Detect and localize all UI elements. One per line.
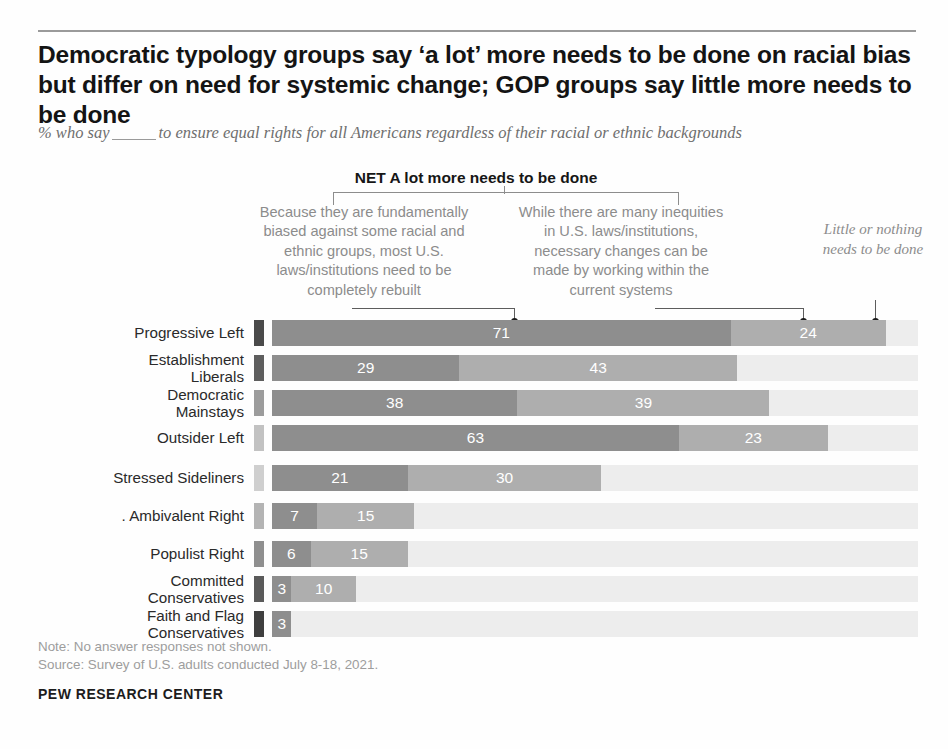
- bar-value-rebuilt: 29: [357, 359, 374, 377]
- bar-track: 6 15: [272, 541, 918, 567]
- group-tick: [254, 465, 264, 491]
- bar-value-within: 43: [590, 359, 607, 377]
- bar-track: 38 39: [272, 390, 918, 416]
- top-divider: [38, 30, 916, 32]
- bar-track: 3 10: [272, 576, 918, 602]
- bar-segment-within: 24: [731, 320, 886, 346]
- bar-value-within: 23: [745, 429, 762, 447]
- bar-chart: Progressive Left 71 24 EstablishmentLibe…: [38, 318, 918, 628]
- footnotes: Note: No answer responses not shown. Sou…: [38, 638, 378, 674]
- table-row: Stressed Sideliners 21 30: [38, 463, 918, 493]
- bar-value-within: 39: [635, 394, 652, 412]
- bar-track: 71 24: [272, 320, 918, 346]
- bar-segment-rebuilt: 29: [272, 355, 459, 381]
- row-label: CommittedConservatives: [38, 572, 254, 607]
- row-label: Stressed Sideliners: [38, 469, 254, 486]
- bar-segment-rebuilt: 63: [272, 425, 679, 451]
- bar-segment-rebuilt: 71: [272, 320, 731, 346]
- subtitle-suffix: to ensure equal rights for all Americans…: [159, 123, 742, 142]
- row-label: . Ambivalent Right: [38, 507, 254, 524]
- bar-value-rebuilt: 3: [277, 615, 286, 633]
- row-label-line: Mainstays: [176, 403, 244, 420]
- row-label-line: Conservatives: [148, 589, 244, 606]
- bar-value-within: 10: [315, 580, 332, 598]
- column-header-within-systems: While there are many inequities in U.S. …: [516, 203, 726, 300]
- group-tick: [254, 503, 264, 529]
- group-tick: [254, 576, 264, 602]
- group-tick: [254, 390, 264, 416]
- table-row: Progressive Left 71 24: [38, 318, 918, 348]
- row-label-line: Populist Right: [150, 545, 244, 562]
- row-label-line: Liberals: [191, 368, 244, 385]
- bar-track: 63 23: [272, 425, 918, 451]
- bar-segment-within: 30: [408, 465, 602, 491]
- group-tick: [254, 425, 264, 451]
- row-label-line: Faith and Flag: [147, 607, 244, 624]
- bar-segment-within: 15: [311, 541, 408, 567]
- net-header-label: NET A lot more needs to be done: [256, 169, 696, 187]
- group-tick: [254, 355, 264, 381]
- table-row: Faith and FlagConservatives 3: [38, 609, 918, 639]
- row-label: Populist Right: [38, 545, 254, 562]
- subtitle-blank: [112, 139, 156, 140]
- row-label-line: Democratic: [167, 386, 244, 403]
- column-header-little-nothing: Little or nothing needs to be done: [818, 219, 928, 260]
- bar-value-rebuilt: 38: [386, 394, 403, 412]
- row-label: Faith and FlagConservatives: [38, 607, 254, 642]
- bar-value-within: 15: [357, 507, 374, 525]
- table-row: Populist Right 6 15: [38, 539, 918, 569]
- page-title: Democratic typology groups say ‘a lot’ m…: [38, 40, 918, 130]
- bar-value-rebuilt: 6: [287, 545, 296, 563]
- chart-subtitle: % who sayto ensure equal rights for all …: [38, 122, 898, 143]
- bar-segment-within: 43: [459, 355, 737, 381]
- bar-segment-within: 39: [517, 390, 769, 416]
- chart-page: Democratic typology groups say ‘a lot’ m…: [0, 0, 948, 749]
- footnote-note: Note: No answer responses not shown.: [38, 638, 378, 656]
- table-row: Outsider Left 63 23: [38, 423, 918, 453]
- row-label-line: Committed: [171, 572, 244, 589]
- row-label: Progressive Left: [38, 324, 254, 341]
- row-label-line: Stressed Sideliners: [113, 469, 244, 486]
- footnote-source: Source: Survey of U.S. adults conducted …: [38, 656, 378, 674]
- bar-value-within: 30: [496, 469, 513, 487]
- bar-track: 3: [272, 611, 918, 637]
- bar-segment-within: 15: [317, 503, 414, 529]
- bar-track: 29 43: [272, 355, 918, 381]
- bar-value-within: 15: [351, 545, 368, 563]
- group-tick: [254, 611, 264, 637]
- bar-segment-rebuilt: 7: [272, 503, 317, 529]
- bar-value-rebuilt: 71: [493, 324, 510, 342]
- row-label-line: Outsider Left: [157, 429, 244, 446]
- row-label: DemocraticMainstays: [38, 386, 254, 421]
- row-label: EstablishmentLiberals: [38, 351, 254, 386]
- bar-value-rebuilt: 63: [467, 429, 484, 447]
- bar-segment-rebuilt: 3: [272, 611, 291, 637]
- bar-track: 21 30: [272, 465, 918, 491]
- table-row: DemocraticMainstays 38 39: [38, 388, 918, 418]
- bar-value-rebuilt: 7: [290, 507, 299, 525]
- row-label-line: . Ambivalent Right: [122, 507, 244, 524]
- bar-track: 7 15: [272, 503, 918, 529]
- bar-segment-rebuilt: 6: [272, 541, 311, 567]
- bar-segment-rebuilt: 3: [272, 576, 291, 602]
- table-row: EstablishmentLiberals 29 43: [38, 353, 918, 383]
- group-tick: [254, 320, 264, 346]
- bar-value-rebuilt: 3: [277, 580, 286, 598]
- bar-segment-rebuilt: 21: [272, 465, 408, 491]
- subtitle-prefix: % who say: [38, 123, 110, 142]
- row-label-line: Establishment: [149, 351, 244, 368]
- row-label-line: Progressive Left: [134, 324, 244, 341]
- bar-segment-within: 23: [679, 425, 828, 451]
- group-tick: [254, 541, 264, 567]
- bar-segment-within: 10: [291, 576, 356, 602]
- table-row: CommittedConservatives 3 10: [38, 574, 918, 604]
- table-row: . Ambivalent Right 7 15: [38, 501, 918, 531]
- column-header-rebuilt: Because they are fundamentally biased ag…: [258, 203, 470, 300]
- row-label: Outsider Left: [38, 429, 254, 446]
- bar-value-rebuilt: 21: [331, 469, 348, 487]
- bar-value-within: 24: [800, 324, 817, 342]
- pew-research-center-credit: PEW RESEARCH CENTER: [38, 686, 223, 702]
- bar-segment-rebuilt: 38: [272, 390, 517, 416]
